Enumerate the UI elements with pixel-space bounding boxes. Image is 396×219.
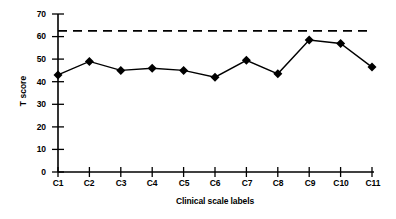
data-point-c4 — [148, 64, 157, 73]
data-point-c2 — [85, 57, 94, 66]
data-point-c3 — [116, 66, 125, 75]
data-point-c7 — [242, 56, 251, 65]
data-point-c1 — [54, 70, 63, 79]
series-line — [58, 40, 372, 77]
chart-container: 70 60 50 40 30 20 10 0 C1 C2 C3 C4 C5 C6… — [0, 0, 396, 219]
data-point-c6 — [211, 73, 220, 82]
plot-area — [0, 0, 396, 219]
y-axis — [52, 14, 64, 172]
data-point-c5 — [179, 66, 188, 75]
x-axis — [58, 167, 374, 177]
